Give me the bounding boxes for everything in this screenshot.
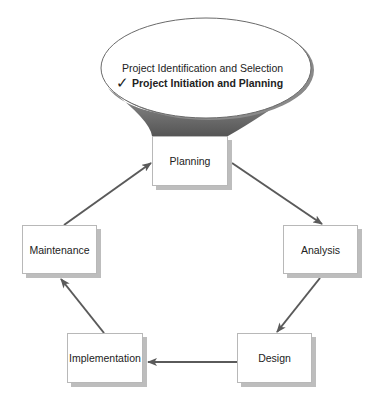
arrow-planning-to-analysis (232, 163, 322, 224)
node-implementation: Implementation (67, 333, 143, 383)
callout-item-label: Project Identification and Selection (122, 62, 283, 74)
node-maintenance: Maintenance (22, 225, 97, 274)
callout-list: Project Identification and Selection ✓Pr… (116, 61, 316, 90)
node-analysis: Analysis (283, 225, 358, 274)
node-planning: Planning (152, 136, 228, 186)
node-label: Maintenance (29, 244, 89, 256)
callout-item-identification: Project Identification and Selection (116, 61, 316, 75)
arrow-maintenance-to-planning (64, 163, 151, 225)
node-design: Design (237, 333, 312, 383)
checkmark-icon: ✓ (116, 74, 129, 91)
node-label: Analysis (301, 244, 340, 256)
node-label: Implementation (69, 352, 141, 364)
node-label: Planning (170, 155, 211, 167)
arrow-implementation-to-maintenance (61, 279, 104, 333)
callout-item-initiation: ✓Project Initiation and Planning (116, 75, 316, 90)
arrow-analysis-to-design (277, 278, 320, 332)
callout-item-label: Project Initiation and Planning (132, 77, 283, 89)
node-label: Design (258, 352, 291, 364)
